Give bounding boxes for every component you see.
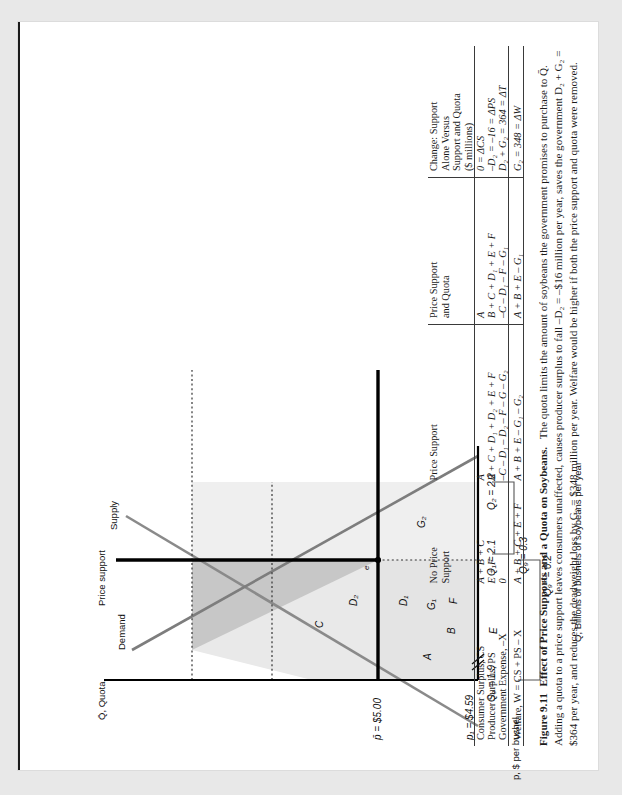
row-label-welfare: Welfare, W = CS + PS – X (509, 589, 524, 746)
row-label-government-expense: Government Expense, –X (497, 589, 509, 746)
supply-curve-label: Supply (108, 501, 119, 530)
figure-title: Effect of Price Supports and a Quota on … (537, 447, 549, 686)
equilibrium-letter: e (362, 566, 371, 570)
cell-ps-price-support-quota: B + C + D₁ + E + F (486, 178, 497, 325)
region-label-d2: D₂ (348, 595, 359, 606)
cell-ge-change: D₂ + G₂ = 364 = ΔT (497, 46, 509, 178)
cell-ps-change: –D₂ = –16 = ΔPS (486, 46, 497, 178)
cell-ps-price-support: B + C + D₁ + D₂ + E + F (486, 325, 497, 487)
price-support-value-label: p̄ = $5.00 (372, 698, 383, 740)
cell-cs-no-price-support: A + B + C (475, 487, 487, 590)
region-label-c: C (314, 621, 325, 628)
book-page-sheet: A e A B C D₁ D₂ E F G₁ G₂ Supply Demand … (18, 22, 598, 770)
rotated-figure-content: A e A B C D₁ D₂ E F G₁ G₂ Supply Demand … (20, 22, 598, 770)
table-row: Government Expense, –X 0 –C – D₁ – D₂ – … (497, 46, 509, 746)
table-row: Producer Surplus, PS E + F B + C + D₁ + … (486, 46, 497, 746)
figure-caption: Figure 9.11 Effect of Price Supports and… (536, 46, 581, 746)
quota-line-label: Q̄, Quota (96, 681, 107, 720)
supply-demand-chart: A e A B C D₁ D₂ E F G₁ G₂ Supply Demand … (86, 346, 416, 746)
th-price-support-l1: Price Support (428, 424, 439, 480)
cell-cs-price-support-quota: A (475, 178, 487, 325)
equilibrium-point (375, 558, 381, 564)
welfare-table-element: No Price Support Price Support Price Sup… (428, 46, 524, 746)
th-no-price-support-l1: No Price (428, 547, 439, 583)
welfare-table: No Price Support Price Support Price Sup… (428, 46, 520, 746)
table-total-row: Welfare, W = CS + PS – X A + B + C + E +… (509, 46, 524, 746)
row-label-consumer-surplus: Consumer Surplus, CS (475, 589, 487, 746)
th-no-price-support: No Price Support (428, 487, 475, 590)
th-price-support-quota-l1: Price Support (428, 262, 439, 318)
cell-w-change: G₂ = 348 = ΔW (509, 46, 524, 178)
row-label-producer-surplus: Producer Surplus, PS (486, 589, 497, 746)
cell-ps-no-price-support: E + F (486, 487, 497, 590)
th-change-l3: Support and Quota (451, 93, 462, 171)
demand-curve-label: Demand (116, 614, 127, 650)
cell-w-price-support-quota: A + B + E – G₁ (509, 178, 524, 325)
cell-cs-price-support: A (475, 325, 487, 487)
table-header-row: No Price Support Price Support Price Sup… (428, 46, 475, 746)
th-change-l2: Alone Versus (440, 116, 451, 171)
th-no-price-support-l2: Support (440, 551, 451, 584)
cell-w-no-price-support: A + B + C + E + F (509, 487, 524, 590)
chart-final-svg (86, 346, 486, 746)
th-price-support: Price Support (428, 325, 475, 487)
price-support-label: Price support (96, 550, 107, 606)
th-change-l4: ($ millions) (463, 123, 474, 171)
cell-ge-no-price-support: 0 (497, 487, 509, 590)
region-label-g2: G₂ (416, 516, 427, 528)
th-price-support-quota: Price Support and Quota (428, 178, 475, 325)
region-label-d1: D₁ (398, 596, 409, 606)
th-change-l1: Change: Support (428, 102, 439, 172)
th-price-support-quota-l2: and Quota (440, 275, 451, 318)
th-blank (428, 589, 475, 746)
cell-w-price-support: A + B + E – G₁ – G₂ (509, 325, 524, 487)
cell-cs-change: 0 = ΔCS (475, 46, 487, 178)
cell-ge-price-support-quota: –C – D₁ – F – G₁ (497, 178, 509, 325)
cell-ge-price-support: –C – D₁ – D₂ – F – G – G₂ (497, 325, 509, 487)
table-row: Consumer Surplus, CS A + B + C A A 0 = Δ… (475, 46, 487, 746)
figure-number: Figure 9.11 (537, 693, 549, 746)
th-change: Change: Support Alone Versus Support and… (428, 46, 475, 178)
